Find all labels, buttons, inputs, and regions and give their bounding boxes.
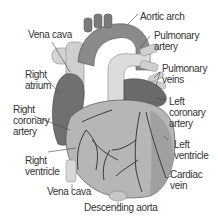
label-right-atrium: Rightatrium <box>25 69 51 91</box>
label-left-ventricle: Leftventricle <box>174 139 209 161</box>
heart-diagram: Vena cava Aortic arch Pulmonaryartery Pu… <box>0 0 218 219</box>
label-right-coronary-artery: Rightcoronaryartery <box>13 104 50 137</box>
label-pulmonary-artery: Pulmonaryartery <box>154 30 199 52</box>
label-left-coronary-artery: Leftcoronaryartery <box>169 96 206 129</box>
label-right-ventricle: Rightventricle <box>25 155 60 177</box>
label-pulmonary-veins: Pulmonaryveins <box>162 63 207 85</box>
label-aortic-arch: Aortic arch <box>140 11 185 22</box>
label-vena-cava-top: Vena cava <box>28 29 72 40</box>
descending-aorta-stub <box>109 191 127 201</box>
label-descending-aorta: Descending aorta <box>84 202 158 213</box>
label-cardiac-vein: Cardiacvein <box>170 169 202 191</box>
inferior-vena-cava-shape <box>66 160 76 182</box>
label-vena-cava-bottom: Vena cava <box>47 186 91 197</box>
